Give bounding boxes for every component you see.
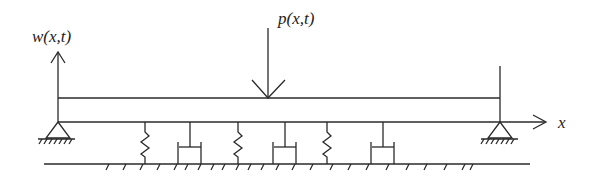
left-pin-support-icon <box>38 122 75 144</box>
x-axis-label: x <box>557 113 566 132</box>
damper-icon <box>371 122 394 164</box>
deflection-label: w(x,t) <box>32 27 72 46</box>
ground-hatch <box>106 164 473 170</box>
beam-diagram: w(x,t) p(x,t) x <box>0 0 593 181</box>
spring-icon <box>234 122 242 164</box>
damper-icon <box>273 122 296 164</box>
spring-icon <box>323 122 331 164</box>
right-pin-support-icon <box>481 122 518 144</box>
spring-icon <box>141 122 149 164</box>
damper-icon <box>178 122 201 164</box>
load-label: p(x,t) <box>277 9 315 28</box>
